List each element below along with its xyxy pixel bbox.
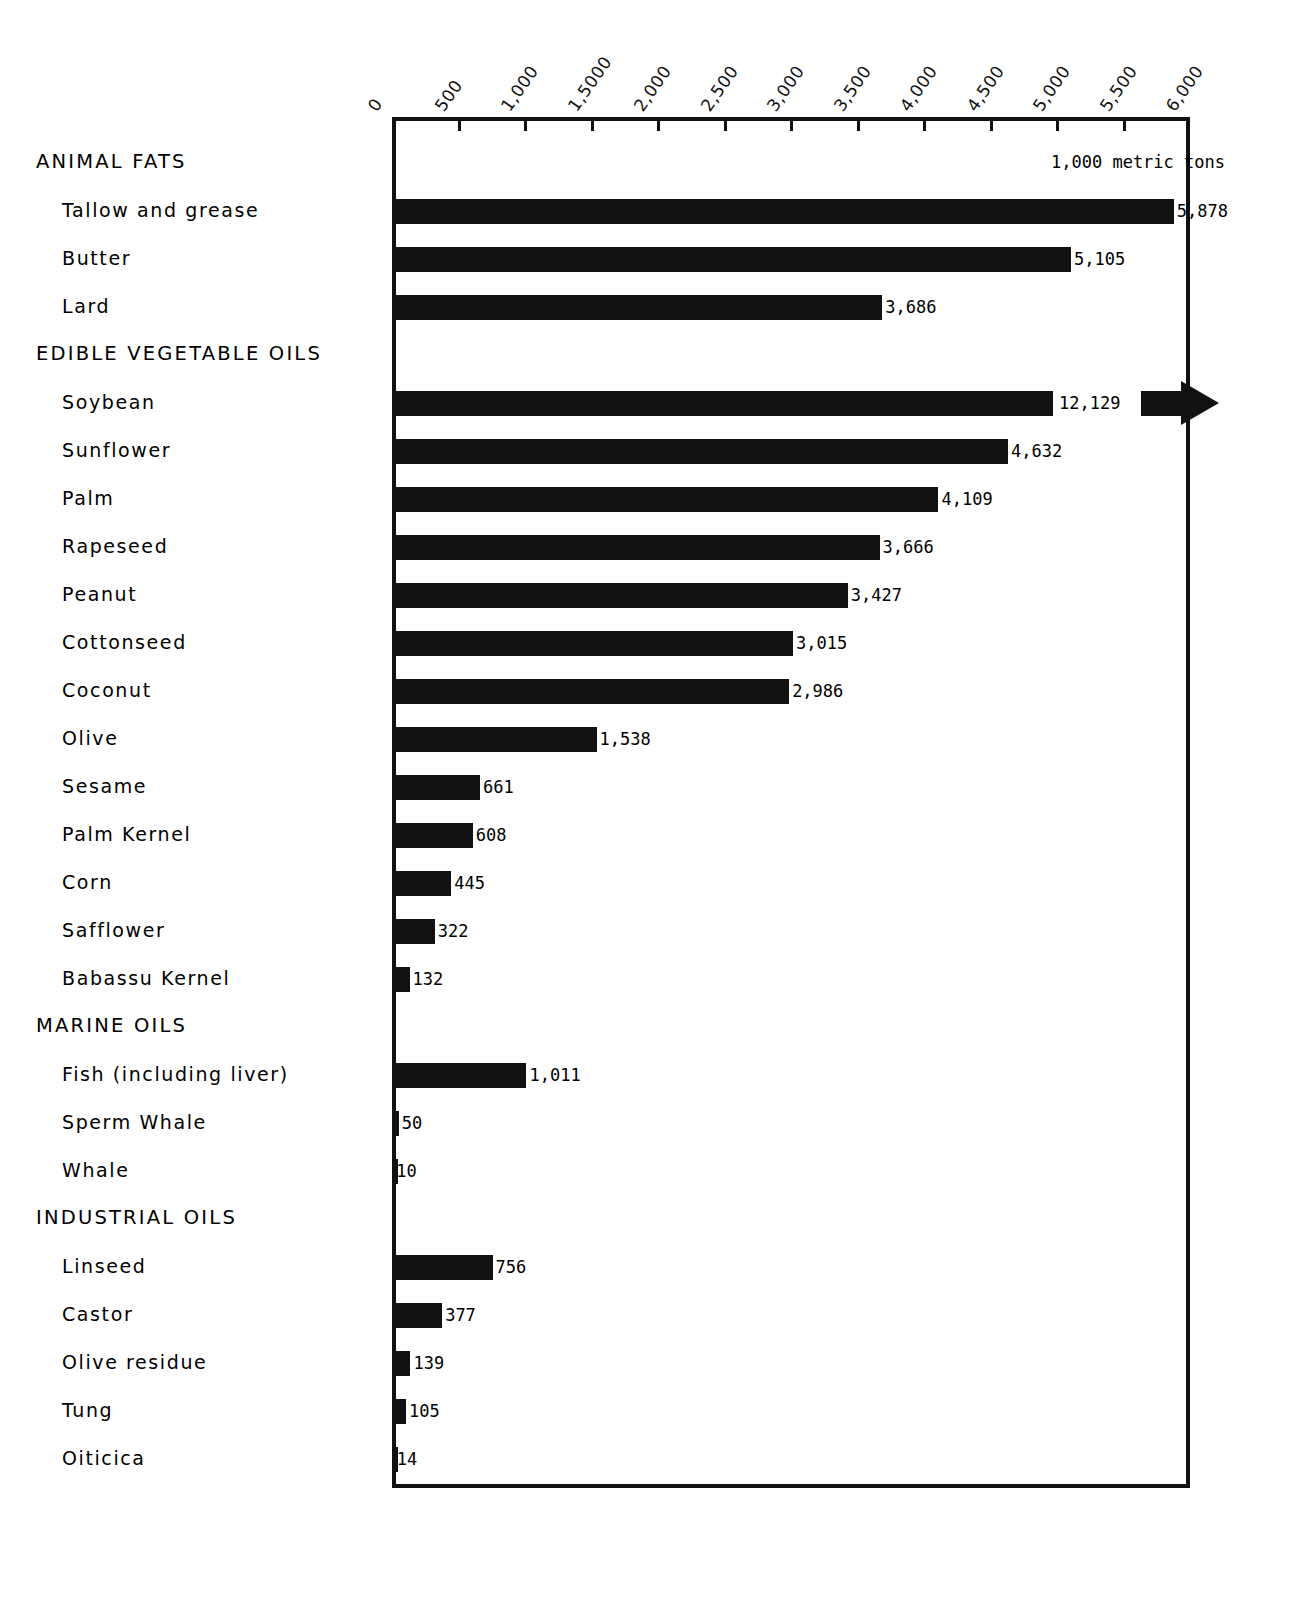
bar bbox=[392, 535, 880, 560]
bar-value-label: 50 bbox=[399, 1111, 422, 1136]
bar-category-label: Whale bbox=[62, 1146, 129, 1194]
bar-row: Castor377 bbox=[0, 1290, 1293, 1338]
arrow-head bbox=[1181, 381, 1219, 425]
x-axis-tick-label: 2,500 bbox=[696, 62, 742, 115]
bar bbox=[392, 1111, 399, 1136]
bar bbox=[392, 487, 938, 512]
bar-row: Soybean12,129 bbox=[0, 378, 1293, 426]
bar-category-label: Palm Kernel bbox=[62, 810, 191, 858]
bar-category-label: Butter bbox=[62, 234, 131, 282]
bar-row: Linseed756 bbox=[0, 1242, 1293, 1290]
bar-row: Oiticica14 bbox=[0, 1434, 1293, 1482]
bar-value-label: 14 bbox=[394, 1447, 417, 1472]
bar-row: Babassu Kernel132 bbox=[0, 954, 1293, 1002]
bar-category-label: Cottonseed bbox=[62, 618, 187, 666]
bar bbox=[392, 631, 793, 656]
bar-row: Peanut3,427 bbox=[0, 570, 1293, 618]
bar-value-label: 377 bbox=[442, 1303, 476, 1328]
bar-value-label: 3,427 bbox=[848, 583, 902, 608]
bar-row: Whale10 bbox=[0, 1146, 1293, 1194]
bar-value-label: 4,632 bbox=[1008, 439, 1062, 464]
bar-row: Palm Kernel608 bbox=[0, 810, 1293, 858]
bar-value-label: 1,011 bbox=[526, 1063, 580, 1088]
bar-value-label: 132 bbox=[410, 967, 444, 992]
bar-category-label: Safflower bbox=[62, 906, 165, 954]
bar-value-label: 2,986 bbox=[789, 679, 843, 704]
bar-category-label: Corn bbox=[62, 858, 113, 906]
bar bbox=[392, 919, 435, 944]
bar-row: Cottonseed3,015 bbox=[0, 618, 1293, 666]
bar bbox=[392, 871, 451, 896]
bar-category-label: Peanut bbox=[62, 570, 137, 618]
bar-row: Tallow and grease5,878 bbox=[0, 186, 1293, 234]
bar-category-label: Coconut bbox=[62, 666, 152, 714]
bar-row: Lard3,686 bbox=[0, 282, 1293, 330]
bar bbox=[392, 679, 789, 704]
bar bbox=[392, 199, 1174, 224]
x-axis-tick-label: 6,000 bbox=[1162, 62, 1208, 115]
bar-row: Safflower322 bbox=[0, 906, 1293, 954]
bar bbox=[392, 391, 1053, 416]
x-axis-tick-label: 2,000 bbox=[630, 62, 676, 115]
bar bbox=[392, 727, 597, 752]
bar-chart: 05001,0001,50002,0002,5003,0003,5004,000… bbox=[0, 0, 1293, 1622]
bar-row: Palm4,109 bbox=[0, 474, 1293, 522]
x-axis-tick-label: 5,000 bbox=[1029, 62, 1075, 115]
bar-row: Olive residue139 bbox=[0, 1338, 1293, 1386]
bar-value-label: 5,105 bbox=[1071, 247, 1125, 272]
bar-row: Sperm Whale50 bbox=[0, 1098, 1293, 1146]
bar-value-label: 139 bbox=[410, 1351, 444, 1376]
bar-row: Corn445 bbox=[0, 858, 1293, 906]
section-header-label: MARINE OILS bbox=[36, 1002, 187, 1050]
x-axis-tick-label: 4,000 bbox=[896, 62, 942, 115]
bar-category-label: Soybean bbox=[62, 378, 156, 426]
bar-value-label: 608 bbox=[473, 823, 507, 848]
bar bbox=[392, 439, 1008, 464]
bar-category-label: Tung bbox=[62, 1386, 113, 1434]
bar-category-label: Fish (including liver) bbox=[62, 1050, 289, 1098]
x-axis-tick-label: 5,500 bbox=[1095, 62, 1141, 115]
x-axis-tick-label: 1,000 bbox=[497, 62, 543, 115]
bar-category-label: Sesame bbox=[62, 762, 147, 810]
bar-value-label: 661 bbox=[480, 775, 514, 800]
bar-row: Sesame661 bbox=[0, 762, 1293, 810]
bar-row: Sunflower4,632 bbox=[0, 426, 1293, 474]
bar bbox=[392, 967, 410, 992]
bar-row: Butter5,105 bbox=[0, 234, 1293, 282]
bar-value-label: 105 bbox=[406, 1399, 440, 1424]
bar-row: Rapeseed3,666 bbox=[0, 522, 1293, 570]
section-row: MARINE OILS bbox=[0, 1002, 1293, 1050]
bar bbox=[392, 1399, 406, 1424]
bar-value-label: 12,129 bbox=[1056, 391, 1120, 416]
bar bbox=[392, 1303, 442, 1328]
section-header-label: ANIMAL FATS bbox=[36, 138, 187, 186]
bar-value-label: 5,878 bbox=[1174, 199, 1228, 224]
section-row: ANIMAL FATS bbox=[0, 138, 1293, 186]
bar-category-label: Rapeseed bbox=[62, 522, 168, 570]
bar-category-label: Lard bbox=[62, 282, 110, 330]
bar-value-label: 1,538 bbox=[597, 727, 651, 752]
x-axis-tick-label: 1,5000 bbox=[563, 52, 615, 115]
x-axis-tick-label: 500 bbox=[430, 76, 466, 115]
bar-row: Fish (including liver)1,011 bbox=[0, 1050, 1293, 1098]
bar-row: Tung105 bbox=[0, 1386, 1293, 1434]
bar-category-label: Linseed bbox=[62, 1242, 146, 1290]
bar-category-label: Sperm Whale bbox=[62, 1098, 207, 1146]
bar bbox=[392, 295, 882, 320]
section-row: INDUSTRIAL OILS bbox=[0, 1194, 1293, 1242]
bar bbox=[392, 1255, 493, 1280]
x-axis-tick-label: 3,500 bbox=[829, 62, 875, 115]
bar-row: Coconut2,986 bbox=[0, 666, 1293, 714]
bar-value-label: 10 bbox=[393, 1159, 416, 1184]
bar-category-label: Sunflower bbox=[62, 426, 171, 474]
bar-category-label: Olive bbox=[62, 714, 118, 762]
section-header-label: INDUSTRIAL OILS bbox=[36, 1194, 237, 1242]
bar bbox=[392, 1063, 526, 1088]
bar-category-label: Castor bbox=[62, 1290, 133, 1338]
bar bbox=[392, 1351, 410, 1376]
x-axis-tick-label: 3,000 bbox=[763, 62, 809, 115]
bar-value-label: 756 bbox=[493, 1255, 527, 1280]
bar-value-label: 3,015 bbox=[793, 631, 847, 656]
x-axis-tick-label: 4,500 bbox=[962, 62, 1008, 115]
x-axis-tick-label: 0 bbox=[364, 94, 387, 115]
